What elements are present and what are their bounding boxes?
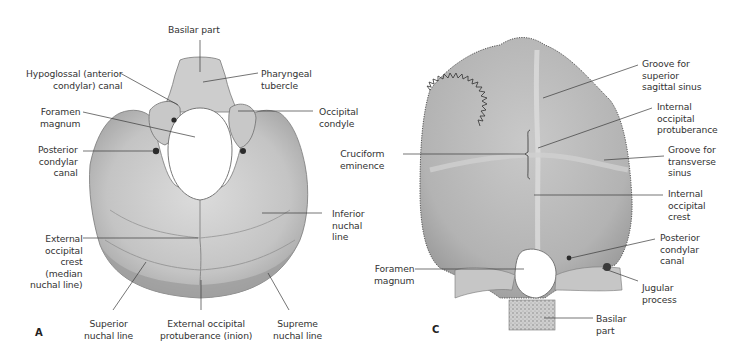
label-cruciform-eminence: Cruciform eminence xyxy=(340,148,384,171)
illustration-canvas xyxy=(0,0,735,356)
label-foramen-magnum-c: Foramen magnum xyxy=(374,263,414,286)
basilar-part-internal xyxy=(509,300,555,330)
occipital-bone-internal-view xyxy=(403,38,664,331)
label-jugular-process: Jugular process xyxy=(642,282,677,305)
foramen-magnum-internal xyxy=(515,249,556,298)
label-occipital-condyle: Occipital condyle xyxy=(319,106,358,129)
label-posterior-condylar-canal-c: Posterior condylar canal xyxy=(660,232,700,267)
label-foramen-magnum-a: Foramen magnum xyxy=(40,106,80,129)
label-groove-superior-sagittal-sinus: Groove for superior sagittal sinus xyxy=(642,58,701,93)
label-internal-occipital-protuberance: Internal occipital protuberance xyxy=(657,101,718,136)
posterior-condylar-canal-right xyxy=(240,148,246,154)
label-external-occipital-crest: External occipital crest (median nuchal … xyxy=(30,233,83,291)
label-internal-occipital-crest: Internal occipital crest xyxy=(668,188,706,223)
hypoglossal-canal xyxy=(171,117,176,122)
label-posterior-condylar-canal-a: Posterior condylar canal xyxy=(38,144,78,179)
label-supreme-nuchal-line: Supreme nuchal line xyxy=(273,318,322,341)
label-basilar-part-a: Basilar part xyxy=(168,24,220,36)
panel-letter-a: A xyxy=(35,327,43,338)
label-pharyngeal-tubercle: Pharyngeal tubercle xyxy=(261,68,312,91)
label-external-occipital-protuberance: External occipital protuberance (inion) xyxy=(160,318,252,341)
label-basilar-part-c: Basilar part xyxy=(596,313,627,336)
label-inferior-nuchal-line: Inferior nuchal line xyxy=(332,208,364,243)
label-groove-transverse-sinus: Groove for transverse sinus xyxy=(668,144,716,179)
label-superior-nuchal-line: Superior nuchal line xyxy=(84,318,133,341)
label-hypoglossal-canal: Hypoglossal (anterior condylar) canal xyxy=(26,68,122,91)
panel-letter-c: C xyxy=(432,324,439,335)
